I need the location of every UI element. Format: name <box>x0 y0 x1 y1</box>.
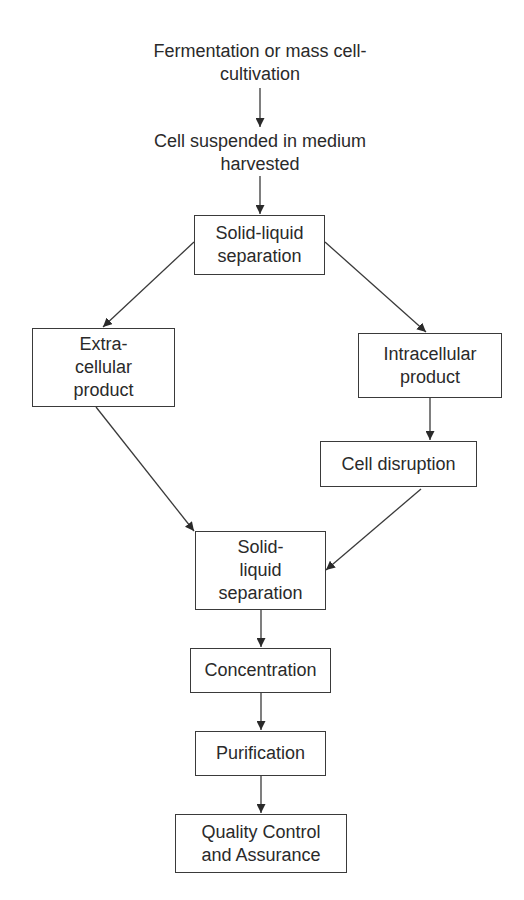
node-fermentation-line-1: Fermentation or mass cell- <box>110 40 410 63</box>
node-concentration: Concentration <box>190 648 331 693</box>
node-extracellular-line-1: Extra- <box>79 333 127 356</box>
arrow-sls1-to-extracellular <box>103 242 194 327</box>
node-extracellular-product: Extra- cellular product <box>32 328 175 407</box>
node-sls1-line-2: separation <box>217 245 301 268</box>
node-cell-disruption: Cell disruption <box>320 441 477 487</box>
node-fermentation-line-2: cultivation <box>110 63 410 86</box>
node-harvested-line-1: Cell suspended in medium <box>110 130 410 153</box>
node-qc-line-1: Quality Control <box>201 821 320 844</box>
node-intracellular-line-2: product <box>400 366 460 389</box>
node-purification-line-1: Purification <box>216 742 305 765</box>
arrow-disruption-to-sls2 <box>326 489 421 570</box>
node-intracellular-product: Intracellular product <box>358 333 502 398</box>
node-solid-liquid-separation-1: Solid-liquid separation <box>194 215 325 275</box>
node-sls2-line-2: liquid <box>239 559 281 582</box>
node-intracellular-line-1: Intracellular <box>383 343 476 366</box>
node-fermentation: Fermentation or mass cell- cultivation <box>110 40 410 86</box>
node-extracellular-line-2: cellular <box>75 356 132 379</box>
node-disruption-line-1: Cell disruption <box>341 453 455 476</box>
node-harvested: Cell suspended in medium harvested <box>110 130 410 176</box>
node-concentration-line-1: Concentration <box>204 659 316 682</box>
arrow-extracellular-to-sls2 <box>96 407 194 531</box>
node-sls2-line-1: Solid- <box>237 536 283 559</box>
node-sls2-line-3: separation <box>218 582 302 605</box>
node-sls1-line-1: Solid-liquid <box>215 222 303 245</box>
node-qc-line-2: and Assurance <box>201 844 320 867</box>
arrow-sls1-to-intracellular <box>325 242 426 332</box>
node-quality-control: Quality Control and Assurance <box>175 814 347 873</box>
node-extracellular-line-3: product <box>73 379 133 402</box>
node-purification: Purification <box>195 731 326 776</box>
node-harvested-line-2: harvested <box>110 153 410 176</box>
node-solid-liquid-separation-2: Solid- liquid separation <box>195 531 326 610</box>
